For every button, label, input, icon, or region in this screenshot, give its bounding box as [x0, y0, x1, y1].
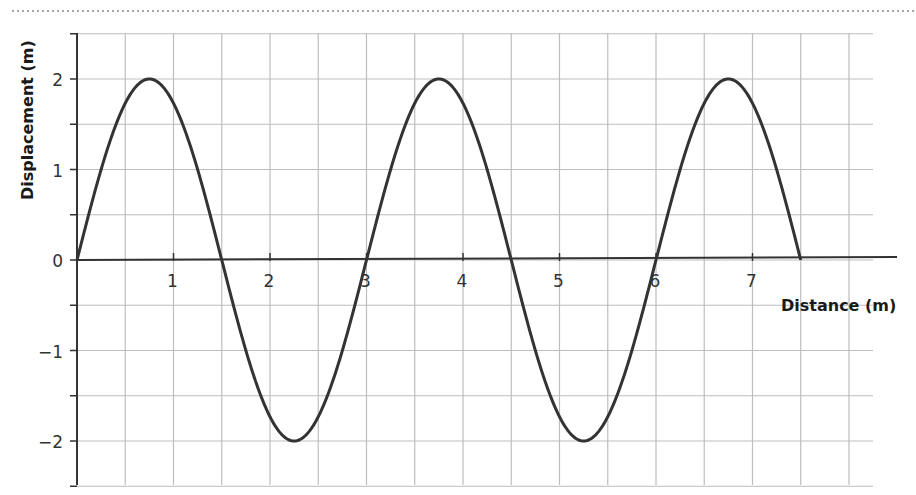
x-axis-title: Distance (m)	[781, 296, 896, 315]
y-tick-label: 1	[52, 161, 63, 181]
wave-chart: 1234567 210−1−2 Distance (m) Displacemen…	[0, 0, 916, 495]
y-tick-label: 0	[52, 251, 63, 271]
x-tick-labels: 1234567	[167, 271, 757, 291]
x-tick-label: 2	[264, 271, 275, 291]
x-tick-label: 5	[553, 271, 564, 291]
y-tick-label: 2	[52, 70, 63, 90]
x-tick-label: 4	[457, 271, 468, 291]
x-tick-label: 3	[360, 271, 371, 291]
x-tick-label: 6	[650, 271, 661, 291]
y-tick-labels: 210−1−2	[38, 70, 63, 452]
y-tick-label: −1	[38, 342, 63, 362]
y-tick-label: −2	[38, 432, 63, 452]
x-tick-label: 1	[167, 271, 178, 291]
x-tick-label: 7	[746, 271, 757, 291]
y-axis-title: Displacement (m)	[18, 40, 37, 200]
